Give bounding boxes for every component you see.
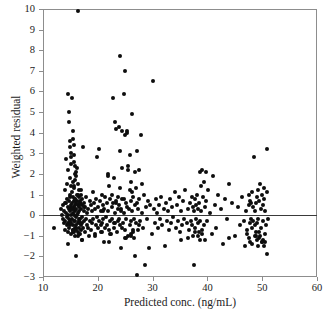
x-tick-mark: [153, 277, 154, 281]
y-tick-mark: [39, 195, 43, 196]
x-tick-label: 60: [297, 283, 331, 294]
plot-frame: [43, 9, 317, 277]
y-tick-mark: [39, 236, 43, 237]
y-tick-label: −1: [0, 231, 35, 242]
y-tick-mark: [39, 71, 43, 72]
x-tick-mark: [317, 277, 318, 281]
y-tick-mark: [39, 91, 43, 92]
x-tick-mark: [98, 277, 99, 281]
y-tick-mark: [39, 30, 43, 31]
scatter-plot-figure: −3−2−1012345678910 102030405060 Weighted…: [0, 0, 331, 318]
y-tick-label: −3: [0, 272, 35, 283]
y-tick-label: 8: [0, 45, 35, 56]
y-axis-title: Weighted residual: [10, 67, 22, 207]
x-tick-mark: [262, 277, 263, 281]
y-tick-mark: [39, 133, 43, 134]
y-tick-label: 0: [0, 210, 35, 221]
y-tick-label: 9: [0, 25, 35, 36]
y-tick-label: 10: [0, 4, 35, 15]
x-tick-mark: [207, 277, 208, 281]
x-tick-label: 20: [78, 283, 118, 294]
x-tick-label: 50: [242, 283, 282, 294]
y-tick-mark: [39, 50, 43, 51]
y-tick-mark: [39, 153, 43, 154]
x-tick-label: 30: [133, 283, 173, 294]
y-tick-mark: [39, 174, 43, 175]
zero-reference-line: [43, 215, 317, 216]
y-tick-mark: [39, 9, 43, 10]
x-axis-title: Predicted conc. (ng/mL): [43, 296, 317, 308]
y-tick-mark: [39, 256, 43, 257]
y-tick-mark: [39, 215, 43, 216]
y-tick-label: −2: [0, 251, 35, 262]
x-tick-label: 10: [23, 283, 63, 294]
x-tick-label: 40: [187, 283, 227, 294]
x-tick-mark: [43, 277, 44, 281]
y-tick-mark: [39, 112, 43, 113]
